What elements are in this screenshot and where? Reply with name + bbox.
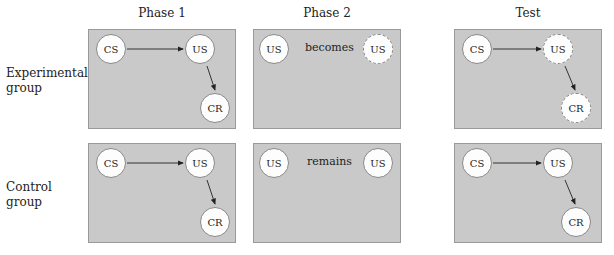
us-node: US [185,34,215,64]
us-node: US [543,148,573,178]
cs-node: CS [462,34,492,64]
panel-control-phase2: US remains US [253,143,401,243]
row-label-line: group [6,195,52,210]
panel-control-test: CS US CR [454,143,602,243]
us-node-right: US [363,148,393,178]
row-label-experimental: Experimental group [6,66,88,96]
panel-experimental-test: CS US CR [454,29,602,129]
column-header-test: Test [454,6,602,20]
relation-label: remains [307,155,352,168]
cr-node: CR [561,207,591,237]
row-label-line: Control [6,180,52,195]
us-node: US [185,148,215,178]
us-node-right-dashed: US [363,34,393,64]
us-node-left: US [259,148,289,178]
row-label-line: group [6,81,88,96]
row-label-line: Experimental [6,66,88,81]
cr-node: CR [200,207,230,237]
column-header-phase1: Phase 1 [88,6,236,20]
cr-node: CR [200,93,230,123]
panel-experimental-phase1: CS US CR [88,29,236,129]
cr-node-dashed: CR [561,93,591,123]
us-node-dashed: US [543,34,573,64]
cs-node: CS [96,148,126,178]
column-header-phase2: Phase 2 [253,6,401,20]
cs-node: CS [96,34,126,64]
us-node-left: US [259,34,289,64]
row-label-control: Control group [6,180,52,210]
panel-control-phase1: CS US CR [88,143,236,243]
relation-label: becomes [305,41,354,54]
cs-node: CS [462,148,492,178]
panel-experimental-phase2: US becomes US [253,29,401,129]
